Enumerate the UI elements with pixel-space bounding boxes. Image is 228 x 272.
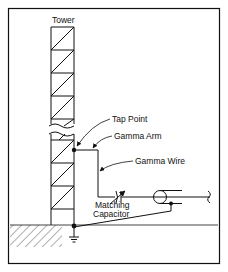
gamma-wire-label: Gamma Wire bbox=[135, 156, 185, 166]
tap-point-label: Tap Point bbox=[112, 114, 148, 124]
gamma-match-diagram: Tower bbox=[0, 0, 228, 272]
tower-label: Tower bbox=[52, 15, 75, 25]
gamma-wire-leader bbox=[100, 161, 133, 171]
gamma-arm-label: Gamma Arm bbox=[114, 131, 162, 141]
tower-lower-section bbox=[49, 132, 74, 225]
tower-upper-section bbox=[49, 27, 74, 128]
gamma-arm-leader bbox=[93, 136, 112, 148]
ground-symbol-icon bbox=[69, 226, 79, 242]
matching-capacitor-label-line2: Capacitor bbox=[93, 209, 130, 219]
gamma-arm bbox=[74, 150, 115, 197]
ground-hatch bbox=[10, 225, 62, 247]
tap-point-leader bbox=[77, 119, 110, 146]
